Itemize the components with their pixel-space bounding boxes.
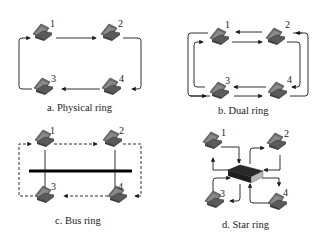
caption-physical-ring: a. Physical ring	[47, 102, 113, 113]
node-label-3: 3	[225, 75, 230, 86]
node-label-2: 2	[285, 19, 290, 30]
panel-physical-ring: 1 2 3 4 a. Physical ring	[19, 18, 141, 113]
laptop-icon	[210, 28, 229, 45]
hub-icon	[228, 165, 263, 183]
node-label-4: 4	[119, 73, 124, 84]
laptop-icon	[203, 132, 222, 149]
panel-dual-ring: 1 2 3 4 b. Dual ring	[188, 19, 308, 116]
node-label-1: 1	[221, 127, 226, 138]
caption-dual-ring: b. Dual ring	[218, 105, 269, 116]
laptop-icon	[266, 28, 285, 45]
caption-bus-ring: c. Bus ring	[55, 215, 102, 226]
node-label-3: 3	[220, 188, 225, 199]
panel-bus-ring: 1 2 3 4 c. Bus ring	[19, 125, 141, 226]
node-label-1: 1	[50, 18, 55, 29]
laptop-icon	[268, 82, 287, 99]
node-label-2: 2	[118, 18, 123, 29]
network-topology-diagram: 1 2 3 4 a. Physical ring 1 2 3 4 b. Dual…	[0, 0, 324, 243]
node-label-1: 1	[50, 125, 55, 136]
node-label-4: 4	[283, 187, 288, 198]
node-label-4: 4	[287, 74, 292, 85]
node-label-2: 2	[119, 125, 124, 136]
panel-star-ring: 1 2 3 4 d. Star ring	[203, 127, 289, 230]
node-label-3: 3	[51, 181, 56, 192]
node-label-1: 1	[225, 19, 230, 30]
node-label-4: 4	[118, 181, 123, 192]
node-label-2: 2	[284, 128, 289, 139]
node-label-3: 3	[51, 73, 56, 84]
caption-star-ring: d. Star ring	[222, 219, 270, 230]
